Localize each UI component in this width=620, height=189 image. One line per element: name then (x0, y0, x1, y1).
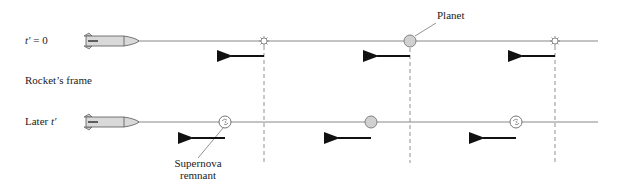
rocket-icon (84, 114, 139, 130)
dashed-guides (264, 46, 555, 163)
supernova-remnant-icon (219, 116, 231, 128)
label-supernova-remnant: Supernova remnant (172, 157, 224, 181)
label-later-t-prime: Later t′ (25, 115, 56, 127)
diagram-canvas (0, 0, 620, 189)
planet-icon (404, 35, 416, 47)
row-t-prime-zero (84, 23, 598, 56)
row-later-t-prime (84, 114, 598, 158)
label-rockets-frame: Rocket’s frame (25, 74, 92, 86)
label-t-prime-zero: t′ = 0 (25, 34, 48, 46)
label-planet: Planet (437, 9, 465, 21)
planet-leader-line (415, 23, 436, 36)
rocket-icon (84, 33, 139, 49)
remnant-leader-line (198, 128, 223, 158)
planet-icon (365, 116, 377, 128)
star-icon (550, 36, 560, 46)
supernova-remnant-icon (510, 116, 522, 128)
star-icon (259, 36, 269, 46)
